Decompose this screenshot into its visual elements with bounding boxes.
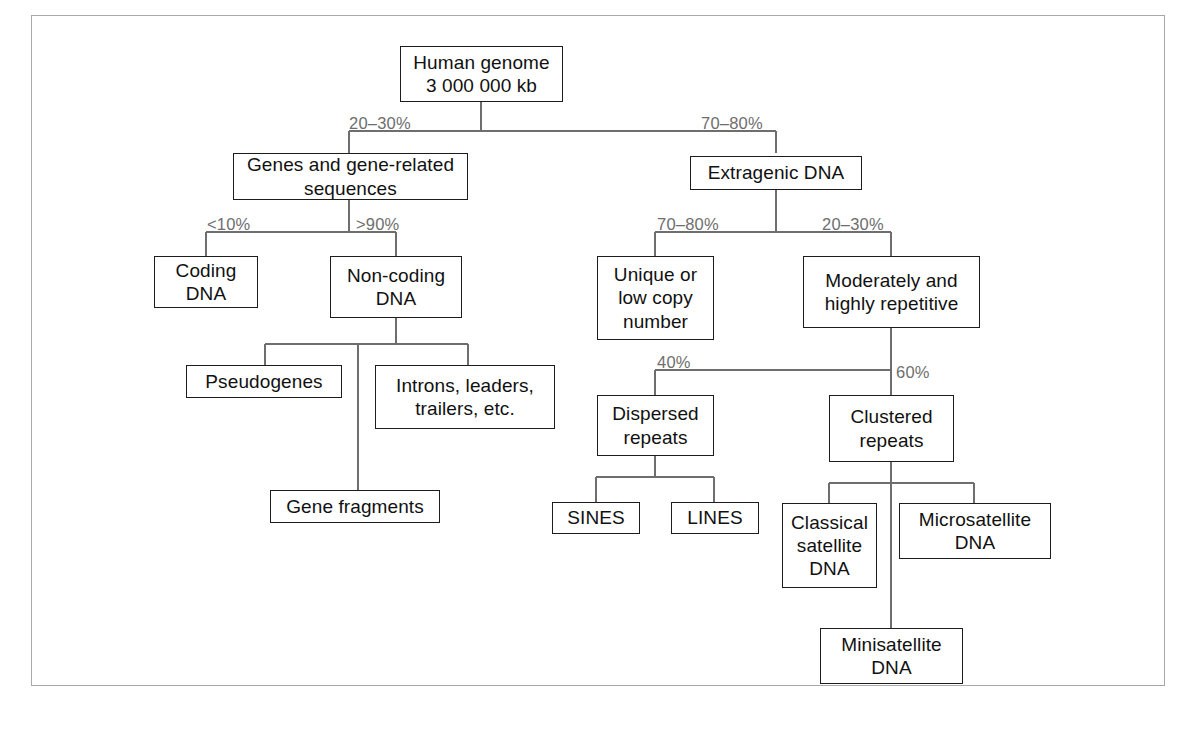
edge-label-extragenic-to-repetitive: 20–30%: [822, 216, 884, 233]
node-moderately-and-highly-repetitive[interactable]: Moderately and highly repetitive: [803, 256, 980, 328]
node-genes-and-gene-related-sequences[interactable]: Genes and gene-related sequences: [233, 153, 468, 200]
node-label: SINES: [567, 506, 625, 529]
edge-label-genes-to-noncoding: >90%: [356, 216, 399, 233]
node-dispersed-repeats[interactable]: Dispersed repeats: [597, 395, 714, 456]
node-gene-fragments[interactable]: Gene fragments: [270, 490, 440, 523]
node-label: Microsatellite DNA: [919, 508, 1031, 554]
node-label: Human genome 3 000 000 kb: [413, 51, 549, 97]
node-minisatellite-dna[interactable]: Minisatellite DNA: [820, 628, 963, 684]
node-label: Extragenic DNA: [708, 161, 845, 184]
node-label: Clustered repeats: [850, 405, 932, 451]
edge-label-repetitive-to-dispersed: 40%: [657, 354, 691, 371]
node-label: Non-coding DNA: [347, 264, 445, 310]
node-human-genome[interactable]: Human genome 3 000 000 kb: [400, 46, 563, 102]
edge-label-repetitive-to-clustered: 60%: [896, 364, 930, 381]
node-coding-dna[interactable]: Coding DNA: [154, 256, 258, 308]
edge-label-genome-to-genes: 20–30%: [349, 115, 411, 132]
node-lines[interactable]: LINES: [671, 502, 759, 534]
node-microsatellite-dna[interactable]: Microsatellite DNA: [899, 503, 1051, 559]
node-label: Introns, leaders, trailers, etc.: [396, 374, 534, 420]
node-clustered-repeats[interactable]: Clustered repeats: [829, 395, 954, 462]
node-label: Genes and gene-related sequences: [247, 153, 454, 199]
node-label: Coding DNA: [176, 259, 237, 305]
node-unique-or-low-copy-number[interactable]: Unique or low copy number: [597, 256, 714, 340]
node-label: Gene fragments: [286, 495, 424, 518]
node-introns-leaders-trailers[interactable]: Introns, leaders, trailers, etc.: [375, 365, 555, 429]
node-pseudogenes[interactable]: Pseudogenes: [186, 365, 342, 398]
node-extragenic-dna[interactable]: Extragenic DNA: [690, 156, 862, 190]
diagram-canvas: Human genome 3 000 000 kb Genes and gene…: [0, 0, 1181, 733]
node-classical-satellite-dna[interactable]: Classical satellite DNA: [782, 503, 877, 588]
edge-label-genes-to-coding: <10%: [207, 216, 250, 233]
node-label: Unique or low copy number: [614, 263, 697, 333]
node-label: LINES: [687, 506, 742, 529]
node-sines[interactable]: SINES: [552, 502, 640, 534]
figure-border: [31, 15, 1165, 686]
node-label: Pseudogenes: [205, 370, 322, 393]
edge-label-extragenic-to-unique: 70–80%: [657, 216, 719, 233]
node-label: Classical satellite DNA: [791, 511, 868, 581]
node-label: Minisatellite DNA: [841, 633, 942, 679]
node-label: Dispersed repeats: [612, 402, 698, 448]
node-label: Moderately and highly repetitive: [825, 269, 959, 315]
edge-label-genome-to-extragenic: 70–80%: [701, 115, 763, 132]
node-non-coding-dna[interactable]: Non-coding DNA: [330, 256, 462, 318]
